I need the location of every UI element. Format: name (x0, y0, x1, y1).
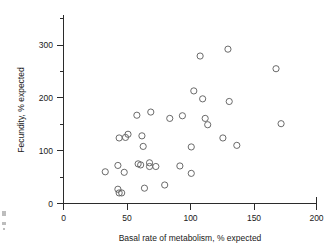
y-axis-title: Fecundity, % expected (16, 67, 26, 153)
data-point-series (102, 46, 284, 196)
y-tick-label-0: 0 (48, 199, 53, 209)
x-tick-label-50: 50 (122, 213, 132, 223)
x-axis-ticks (64, 204, 317, 211)
data-point (115, 186, 121, 192)
data-point (202, 115, 208, 121)
data-point (205, 122, 211, 128)
data-point (234, 142, 240, 148)
data-point (139, 133, 145, 139)
data-point (148, 109, 154, 115)
data-point (197, 53, 203, 59)
y-tick-label-100: 100 (39, 146, 53, 156)
data-point (141, 185, 147, 191)
scan-edge-marks (2, 211, 6, 230)
data-point (115, 162, 121, 168)
y-tick-label-300: 300 (39, 40, 53, 50)
data-point (226, 98, 232, 104)
data-point (200, 96, 206, 102)
data-point (278, 121, 284, 127)
data-point (177, 163, 183, 169)
plot-canvas: 0 100 200 300 0 50 100 150 200 Basal rat… (0, 0, 334, 251)
x-tick-label-100: 100 (183, 213, 197, 223)
data-point (225, 46, 231, 52)
x-tick-label-0: 0 (61, 213, 66, 223)
y-axis-ticks (57, 19, 64, 204)
data-point (188, 170, 194, 176)
data-point (179, 113, 185, 119)
data-point (162, 182, 168, 188)
data-point (153, 163, 159, 169)
data-point (102, 169, 108, 175)
data-point (191, 88, 197, 94)
y-tick-label-200: 200 (39, 93, 53, 103)
data-point (220, 135, 226, 141)
data-point (273, 66, 279, 72)
data-point (121, 169, 127, 175)
data-point (167, 115, 173, 121)
data-point (116, 135, 122, 141)
data-point (134, 112, 140, 118)
data-point (188, 144, 194, 150)
data-point (146, 163, 152, 169)
x-tick-label-200: 200 (309, 213, 323, 223)
x-axis-title: Basal rate of metabolism, % expected (119, 233, 262, 243)
data-point (140, 143, 146, 149)
x-tick-label-150: 150 (247, 213, 261, 223)
scatter-plot-figure: 0 100 200 300 0 50 100 150 200 Basal rat… (0, 0, 334, 251)
